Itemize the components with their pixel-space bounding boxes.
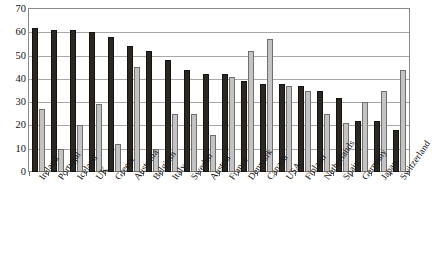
- bar-group: [67, 9, 86, 172]
- bar-group: [295, 9, 314, 172]
- bar-group: [48, 9, 67, 172]
- y-tick-label: 0: [2, 167, 26, 177]
- bar-series-light-australia: [134, 67, 140, 172]
- y-tick-label: 30: [2, 97, 26, 107]
- bar-group: [314, 9, 333, 172]
- bar-group: [390, 9, 409, 172]
- y-axis: 706050403020100: [0, 8, 26, 172]
- y-tick-label: 10: [2, 144, 26, 154]
- bar-group: [29, 9, 48, 172]
- y-tick-label: 50: [2, 51, 26, 61]
- bar-group: [200, 9, 219, 172]
- bar-series-dark-finland: [298, 86, 304, 172]
- bar-group: [181, 9, 200, 172]
- bar-series-dark-ireland: [32, 28, 38, 172]
- bar-series-light-germany: [362, 102, 368, 172]
- x-axis-labels: IrelandPortugalIcelandUKGreeceAustraliaB…: [29, 176, 417, 258]
- bar-series-light-ireland: [39, 109, 45, 172]
- bar-group: [162, 9, 181, 172]
- bar-series-light-netherlands: [324, 114, 330, 172]
- bar-series-dark-uk: [89, 32, 95, 172]
- y-tick-label: 40: [2, 74, 26, 84]
- y-tick-label: 20: [2, 120, 26, 130]
- bar-series-dark-portugal: [51, 30, 57, 172]
- bar-series-light-sweden: [191, 114, 197, 172]
- bar-group: [238, 9, 257, 172]
- bar-series-light-finland: [305, 91, 311, 173]
- bar-group: [276, 9, 295, 172]
- bar-group: [86, 9, 105, 172]
- bar-group: [124, 9, 143, 172]
- bar-series-dark-sweden: [184, 70, 190, 172]
- bar-series-light-switzerland: [400, 70, 406, 172]
- bar-group: [219, 9, 238, 172]
- bar-series-dark-greece: [108, 37, 114, 172]
- y-tick-label: 70: [2, 4, 26, 14]
- bar-series-light-denmark: [248, 51, 254, 172]
- bar-group: [105, 9, 124, 172]
- bar-group: [352, 9, 371, 172]
- y-tick-label: 60: [2, 27, 26, 37]
- bar-series-light-italy: [172, 114, 178, 172]
